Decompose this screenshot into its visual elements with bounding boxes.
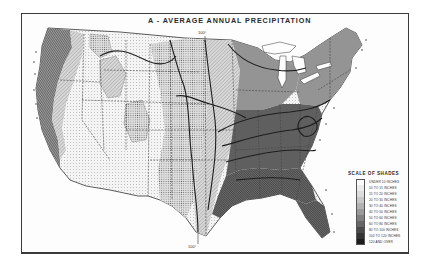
legend-label: 20 TO 30 INCHES [369, 198, 397, 202]
legend-item: 120 AND OVER [356, 239, 408, 245]
legend-swatch [356, 239, 365, 245]
lake-superior [262, 42, 296, 54]
legend-label: 10 TO 15 INCHES [369, 186, 397, 190]
legend-label: 50 TO 60 INCHES [369, 216, 397, 220]
legend-label: 80 TO 100 INCHES [369, 228, 398, 232]
legend-label: 40 TO 50 INCHES [369, 210, 397, 214]
legend-label: 30 TO 40 INCHES [369, 204, 397, 208]
legend-rows: UNDER 10 INCHES10 TO 15 INCHES15 TO 20 I… [356, 179, 408, 245]
meridian-label-top: 100° [198, 30, 206, 35]
legend-title: SCALE OF SHADES [348, 171, 408, 176]
legend-label: 100 TO 120 INCHES [369, 234, 400, 238]
region-florida-50-60 [296, 200, 330, 238]
legend: SCALE OF SHADES UNDER 10 INCHES10 TO 15 … [346, 171, 408, 245]
legend-label: 60 TO 80 INCHES [369, 222, 397, 226]
legend-label: 15 TO 20 INCHES [369, 192, 397, 196]
legend-label: 120 AND OVER [369, 240, 393, 244]
legend-label: UNDER 10 INCHES [369, 180, 399, 184]
map-title: A - AVERAGE ANNUAL PRECIPITATION [148, 16, 311, 25]
meridian-label-bottom: 100° [188, 244, 196, 249]
